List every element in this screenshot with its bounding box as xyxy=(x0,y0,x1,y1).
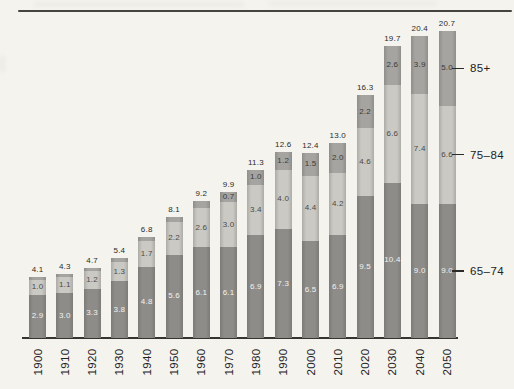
segment-85plus: 3.9 xyxy=(411,36,428,94)
total-label: 4.3 xyxy=(59,262,71,271)
bar-1920: 1.23.3 xyxy=(84,268,101,338)
segment-65-74: 6.5 xyxy=(302,241,319,338)
year-label-1900: 1900 xyxy=(32,348,44,375)
segment-65-74: 6.1 xyxy=(220,247,237,338)
segment-value-label: 6.9 xyxy=(332,283,344,291)
bar-1940: 1.74.8 xyxy=(138,237,155,338)
total-label: 12.6 xyxy=(275,140,291,149)
bar-2050: 5.06.69.0 xyxy=(439,31,456,338)
segment-75-84: 3.4 xyxy=(247,185,264,236)
segment-value-label: 1.7 xyxy=(141,250,153,258)
year-label-2030: 2030 xyxy=(386,348,398,375)
segment-65-74: 5.6 xyxy=(166,255,183,338)
segment-value-label: 2.6 xyxy=(195,224,207,232)
age-group-label-row: 65–74 xyxy=(452,265,504,277)
segment-value-label: 3.9 xyxy=(414,61,426,69)
segment-75-84: 4.0 xyxy=(275,170,292,230)
segment-65-74: 3.3 xyxy=(84,289,101,338)
segment-value-label: 1.0 xyxy=(250,173,262,181)
age-group-label-row: 85+ xyxy=(452,62,491,74)
segment-85plus: 2.0 xyxy=(329,143,346,173)
segment-75-84: 1.3 xyxy=(111,262,128,281)
segment-65-74: 9.5 xyxy=(357,196,374,338)
age-group-label-row: 75–84 xyxy=(452,149,504,161)
segment-value-label: 3.0 xyxy=(59,312,71,320)
tick-dash xyxy=(452,154,464,156)
segment-65-74: 3.8 xyxy=(111,281,128,338)
total-label: 20.7 xyxy=(439,19,455,28)
segment-65-74: 6.1 xyxy=(193,247,210,338)
segment-85plus: 1.5 xyxy=(302,153,319,175)
segment-value-label: 3.4 xyxy=(250,206,262,214)
tick-dash xyxy=(452,270,464,272)
year-label-1930: 1930 xyxy=(113,348,125,375)
segment-value-label: 1.5 xyxy=(305,160,317,168)
segment-value-label: 6.9 xyxy=(250,283,262,291)
year-label-2000: 2000 xyxy=(305,348,317,375)
total-label: 9.9 xyxy=(223,180,235,189)
scanned-page: 1.02.94.119001.13.04.319101.23.34.719201… xyxy=(0,0,514,389)
segment-75-84: 7.4 xyxy=(411,94,428,204)
tick-dash xyxy=(452,68,464,70)
segment-85plus: 1.2 xyxy=(275,152,292,170)
segment-75-84: 4.4 xyxy=(302,176,319,242)
age-group-label: 65–74 xyxy=(470,265,504,277)
total-label: 16.3 xyxy=(357,83,373,92)
total-label: 6.8 xyxy=(141,225,153,234)
segment-value-label: 2.2 xyxy=(168,234,180,242)
segment-value-label: 1.2 xyxy=(277,157,289,165)
segment-value-label: 10.4 xyxy=(384,256,400,264)
segment-85plus: 2.2 xyxy=(357,95,374,128)
segment-value-label: 4.6 xyxy=(359,158,371,166)
segment-85plus: 0.7 xyxy=(220,192,237,202)
segment-value-label: 3.0 xyxy=(223,221,235,229)
total-label: 4.1 xyxy=(32,265,44,274)
segment-75-84: 6.6 xyxy=(384,85,401,183)
segment-value-label: 1.3 xyxy=(114,268,126,276)
segment-value-label: 1.2 xyxy=(86,276,98,284)
segment-65-74: 4.8 xyxy=(138,267,155,339)
year-label-2040: 2040 xyxy=(414,348,426,375)
year-label-1910: 1910 xyxy=(59,348,71,375)
segment-value-label: 9.5 xyxy=(359,263,371,271)
segment-value-label: 7.3 xyxy=(277,280,289,288)
total-label: 11.3 xyxy=(248,158,264,167)
segment-75-84: 1.0 xyxy=(29,280,46,295)
segment-85plus xyxy=(193,201,210,209)
bar-2000: 1.54.46.5 xyxy=(302,153,319,338)
segment-value-label: 6.5 xyxy=(305,286,317,294)
year-label-1920: 1920 xyxy=(86,348,98,375)
total-label: 20.4 xyxy=(412,24,428,33)
year-label-1950: 1950 xyxy=(168,348,180,375)
segment-value-label: 2.9 xyxy=(32,312,44,320)
segment-65-74: 2.9 xyxy=(29,295,46,338)
bar-2030: 2.66.610.4 xyxy=(384,46,401,338)
segment-65-74: 7.3 xyxy=(275,229,292,338)
bar-1900: 1.02.9 xyxy=(29,277,46,338)
segment-75-84: 1.1 xyxy=(56,277,73,293)
segment-65-74: 10.4 xyxy=(384,183,401,338)
segment-75-84: 4.6 xyxy=(357,128,374,197)
segment-75-84: 4.2 xyxy=(329,173,346,236)
segment-75-84: 2.6 xyxy=(193,208,210,247)
total-label: 8.1 xyxy=(168,205,180,214)
segment-value-label: 2.6 xyxy=(387,61,399,69)
year-label-2050: 2050 xyxy=(441,348,453,375)
segment-value-label: 7.4 xyxy=(414,145,426,153)
segment-value-label: 2.2 xyxy=(359,108,371,116)
segment-85plus: 1.0 xyxy=(247,170,264,185)
segment-65-74: 6.9 xyxy=(247,235,264,338)
segment-value-label: 4.0 xyxy=(277,195,289,203)
segment-65-74: 6.9 xyxy=(329,235,346,338)
age-group-label: 85+ xyxy=(470,62,491,74)
bar-1970: 0.73.06.1 xyxy=(220,192,237,338)
bar-2010: 2.04.26.9 xyxy=(329,143,346,338)
age-group-label: 75–84 xyxy=(470,149,504,161)
segment-65-74: 9.0 xyxy=(411,204,428,338)
segment-value-label: 9.0 xyxy=(414,267,426,275)
segment-value-label: 2.0 xyxy=(332,154,344,162)
bar-1950: 2.25.6 xyxy=(166,217,183,338)
total-label: 19.7 xyxy=(384,34,400,43)
year-label-2010: 2010 xyxy=(332,348,344,375)
segment-value-label: 1.1 xyxy=(59,281,71,289)
